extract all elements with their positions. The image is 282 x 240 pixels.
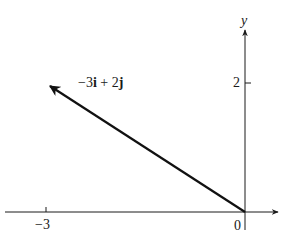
- y-axis-label: y: [241, 14, 247, 28]
- vector-label-coef-i: −3: [78, 75, 93, 90]
- vector-label-plus: +: [97, 75, 112, 90]
- diagram-svg: [0, 0, 282, 240]
- vector-diagram: y 2 −3 0 −3i + 2j: [0, 0, 282, 240]
- y-tick-label-2: 2: [233, 76, 240, 90]
- origin-label: 0: [234, 219, 241, 233]
- vector-label-unit-j: j: [119, 75, 124, 90]
- x-tick-label-neg3: −3: [35, 218, 50, 232]
- vector-label: −3i + 2j: [78, 76, 123, 90]
- vector-arrow: [50, 86, 245, 212]
- vector-label-coef-j: 2: [112, 75, 119, 90]
